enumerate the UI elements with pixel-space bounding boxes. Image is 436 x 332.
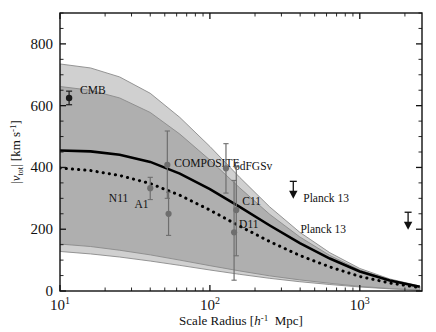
upper-limit-label: Planck 13 <box>303 192 349 204</box>
y-tick-label-1: 200 <box>31 221 54 237</box>
marker-composite <box>164 162 170 168</box>
velocity-vs-scale-radius-chart: CMBN11A1COMPOSITE6dFGSvC11D11 Planck 13P… <box>0 0 436 332</box>
point-label-n11: N11 <box>109 192 129 204</box>
svg-text:Scale Radius [h-1 Mpc]: Scale Radius [h-1 Mpc] <box>179 313 303 328</box>
point-label-composite: COMPOSITE <box>174 157 239 169</box>
y-tick-label-0: 0 <box>46 283 54 299</box>
point-label-d11: D11 <box>239 218 259 230</box>
point-label-c11: C11 <box>242 195 261 207</box>
marker-n11 <box>147 185 153 191</box>
figure-canvas: CMBN11A1COMPOSITE6dFGSvC11D11 Planck 13P… <box>0 0 436 332</box>
y-tick-label-4: 800 <box>31 36 54 52</box>
y-tick-label-3: 600 <box>31 98 54 114</box>
upper-limit-label: Planck 13 <box>300 223 346 235</box>
marker-a1 <box>165 211 171 217</box>
y-tick-label-2: 400 <box>31 159 54 175</box>
point-label-6dfgsv: 6dFGSv <box>234 160 273 172</box>
x-axis-label: Scale Radius [h-1 Mpc] <box>179 313 303 328</box>
marker-d11 <box>231 229 237 235</box>
point-label-cmb: CMB <box>80 84 106 96</box>
marker-cmb <box>66 95 72 101</box>
marker-6dfgsv <box>223 165 229 171</box>
point-label-a1: A1 <box>135 198 149 210</box>
